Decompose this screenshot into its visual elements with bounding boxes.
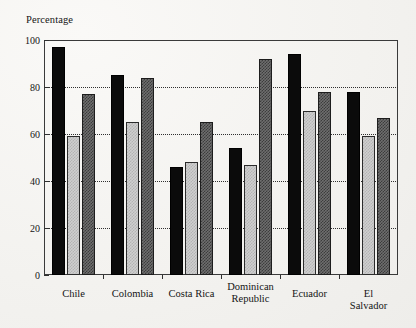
x-axis-label-colombia: Colombia <box>112 288 153 300</box>
x-axis-label-ecuador: Ecuador <box>292 288 327 300</box>
x-axis-label-chile: Chile <box>62 288 85 300</box>
x-axis-label-costa-rica: Costa Rica <box>169 288 215 300</box>
x-axis-label-dominican-republic: Dominican Republic <box>227 281 274 304</box>
bar-chart: Percentage 020406080100 ChileColombiaCos… <box>0 0 416 328</box>
x-axis-labels-group: ChileColombiaCosta RicaDominican Republi… <box>0 0 416 328</box>
x-axis-label-el-salvador: El Salvador <box>345 288 393 311</box>
